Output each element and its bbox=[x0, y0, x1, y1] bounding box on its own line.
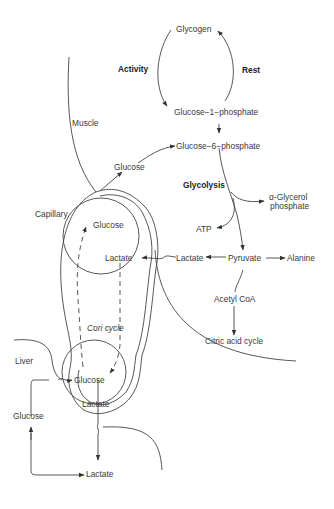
cori-lactate-down-arrow bbox=[110, 263, 120, 373]
atp-arrow bbox=[217, 198, 234, 228]
label-glucose-1-phosphate: Glucose−1−phosphate bbox=[174, 107, 259, 117]
label-citric-acid-cycle: Citric acid cycle bbox=[205, 336, 264, 346]
liver-capillary-circle bbox=[62, 340, 126, 404]
cori-glucose-up-arrow bbox=[77, 227, 86, 367]
alpha-glycerol-arrow bbox=[231, 192, 264, 202]
label-liver: Liver bbox=[15, 356, 33, 366]
label-lactate-capillary-bottom: Lactate bbox=[82, 399, 110, 409]
label-glucose-liver: Glucose bbox=[13, 411, 44, 421]
label-rest: Rest bbox=[242, 65, 260, 75]
liver-glucose-to-lactate-arrow bbox=[31, 433, 84, 475]
label-glucose-6-phosphate: Glucose−6−phosphate bbox=[176, 141, 261, 151]
label-glucose-capillary-bottom: Glucose bbox=[74, 375, 105, 385]
liver-lactate-down-arrow bbox=[97, 380, 98, 460]
label-lactate-liver: Lactate bbox=[86, 469, 114, 479]
label-capillary: Capillary bbox=[35, 209, 68, 219]
capillary-to-muscle-glucose-arrow bbox=[100, 172, 122, 191]
label-atp: ATP bbox=[196, 224, 212, 234]
label-alanine: Alanine bbox=[287, 253, 315, 263]
lactate-to-capillary-arrow bbox=[142, 256, 176, 259]
label-acetyl-coa: Acetyl CoA bbox=[214, 294, 256, 304]
activity-arrow bbox=[158, 30, 171, 106]
label-lactate-capillary-top: Lactate bbox=[105, 253, 133, 263]
label-glycogen: Glycogen bbox=[176, 24, 212, 34]
cori-cycle-diagram: Glycogen Activity Rest Glucose−1−phospha… bbox=[0, 0, 334, 509]
label-activity: Activity bbox=[118, 64, 149, 74]
label-alpha-glycerol-phosphate: phosphate bbox=[270, 201, 309, 211]
rest-arrow bbox=[218, 31, 233, 101]
label-cori-cycle: Cori cycle bbox=[87, 323, 124, 333]
glucose-to-g6p-arrow bbox=[138, 146, 175, 163]
label-glycolysis: Glycolysis bbox=[183, 180, 225, 190]
label-lactate-muscle: Lactate bbox=[176, 253, 204, 263]
label-glucose-capillary-top: Glucose bbox=[93, 220, 124, 230]
label-pyruvate: Pyruvate bbox=[228, 253, 261, 263]
liver-glucose-exit-arrow bbox=[58, 379, 72, 381]
liver-boundary-lower bbox=[103, 427, 162, 470]
label-glucose-muscle: Glucose bbox=[114, 162, 145, 172]
pyruvate-to-acetylcoa-line bbox=[235, 270, 243, 292]
label-muscle: Muscle bbox=[72, 118, 99, 128]
